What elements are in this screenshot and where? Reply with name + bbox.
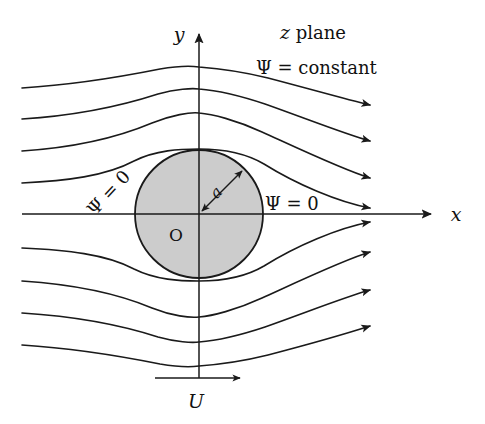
streamline-upper-3 [22,89,370,141]
z-plane-label: z plane [279,21,346,43]
y-axis-label: y [173,23,185,45]
z-plane-word: plane [290,22,346,43]
freestream-label: U [188,390,205,412]
psi-zero-right-label: Ψ = 0 [265,193,319,214]
figure-root: y x O z plane Ψ = constant Ψ = 0 Ψ = 0 a… [0,0,485,424]
streamline-lower-3 [22,290,370,342]
psi-constant-label: Ψ = constant [256,57,378,78]
flow-past-cylinder-diagram: y x O z plane Ψ = constant Ψ = 0 Ψ = 0 a… [0,0,485,424]
streamline-lower-4 [22,326,370,367]
origin-label: O [169,225,183,245]
x-axis-label: x [451,203,462,225]
psi-zero-left-label: Ψ = 0 [82,166,134,220]
